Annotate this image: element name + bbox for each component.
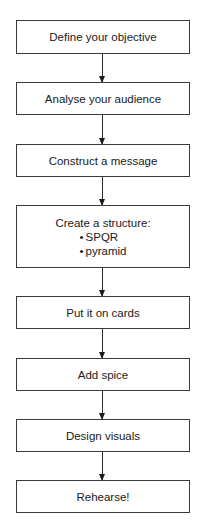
step-label: Analyse your audience bbox=[45, 92, 161, 106]
arrow-down-icon bbox=[102, 329, 103, 358]
arrow-down-icon bbox=[102, 115, 103, 144]
step-add-spice: Add spice bbox=[16, 358, 190, 391]
step-define-objective: Define your objective bbox=[16, 20, 190, 54]
step-label: Define your objective bbox=[49, 30, 156, 44]
step-label: Construct a message bbox=[49, 154, 158, 168]
structure-bullet-list: SPQR pyramid bbox=[80, 230, 127, 258]
step-label: Design visuals bbox=[66, 429, 140, 443]
step-construct-message: Construct a message bbox=[16, 144, 190, 177]
step-label: Create a structure: bbox=[55, 216, 150, 230]
step-rehearse: Rehearse! bbox=[16, 480, 190, 513]
bullet-item: SPQR bbox=[80, 230, 127, 244]
step-label: Add spice bbox=[78, 368, 129, 382]
step-label: Put it on cards bbox=[66, 306, 140, 320]
arrow-down-icon bbox=[102, 54, 103, 82]
bullet-item: pyramid bbox=[80, 244, 127, 258]
arrow-down-icon bbox=[102, 391, 103, 419]
step-analyse-audience: Analyse your audience bbox=[16, 82, 190, 115]
step-put-on-cards: Put it on cards bbox=[16, 296, 190, 329]
arrow-down-icon bbox=[102, 177, 103, 205]
arrow-down-icon bbox=[102, 452, 103, 480]
step-design-visuals: Design visuals bbox=[16, 419, 190, 452]
arrow-down-icon bbox=[102, 268, 103, 296]
step-create-structure: Create a structure: SPQR pyramid bbox=[16, 205, 190, 268]
step-label: Rehearse! bbox=[76, 490, 129, 504]
